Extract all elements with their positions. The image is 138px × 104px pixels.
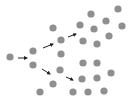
dot-node [118,22,125,29]
arrow-icon [68,34,76,37]
dot-node [36,88,43,95]
dot-node [107,69,114,76]
arrow-icon [42,69,50,74]
dot-node [93,74,100,81]
dot-node [93,40,100,47]
dot-node [93,59,100,66]
dot-node [57,50,64,57]
diagram-canvas [0,0,138,104]
dot-node [78,75,85,82]
dot-node [84,88,91,95]
dot-node [114,5,121,12]
dot-node [100,87,107,94]
dot-node [29,47,36,54]
dot-node [56,66,63,73]
dot-node [57,36,64,43]
dot-node [79,37,86,44]
dot-node [69,88,76,95]
dot-node [87,10,94,17]
dot-node [29,61,36,68]
dot-node [49,80,56,87]
dot-node [79,59,86,66]
dot-node [105,32,112,39]
dot-node [90,25,97,32]
arrow-icon [43,44,53,48]
arrows-layer [18,34,76,80]
dot-node [6,53,13,60]
dots-layer [6,5,125,95]
dots-diagram [0,0,138,104]
arrow-icon [66,77,73,80]
dot-node [102,17,109,24]
dot-node [76,21,83,28]
dot-node [49,24,56,31]
